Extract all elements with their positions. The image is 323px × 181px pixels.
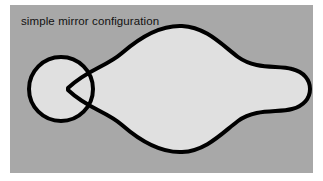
figure-root: simple mirror configuration	[0, 0, 323, 181]
plasma-body-fill	[68, 26, 310, 152]
mirror-configuration-diagram	[10, 5, 313, 173]
diagram-panel: simple mirror configuration	[10, 5, 313, 173]
figure-caption: simple mirror configuration	[21, 15, 159, 28]
